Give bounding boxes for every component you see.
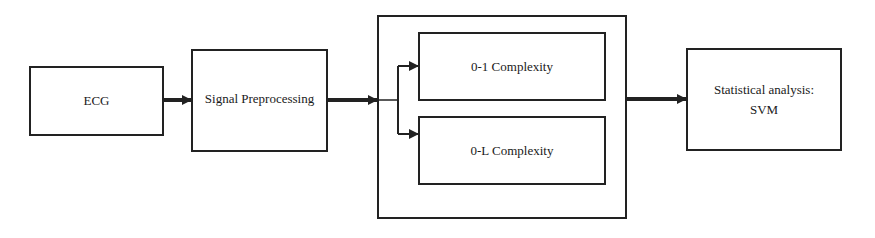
svm-box: Statistical analysis: SVM xyxy=(686,48,842,151)
0l-complexity-label: 0-L Complexity xyxy=(471,141,554,161)
signal-preprocessing-box: Signal Preprocessing xyxy=(191,49,328,152)
svm-label-line2: SVM xyxy=(750,100,778,120)
01-complexity-box: 0-1 Complexity xyxy=(418,32,606,101)
signal-preprocessing-label: Signal Preprocessing xyxy=(205,89,314,109)
svm-label-line1: Statistical analysis: xyxy=(714,80,814,100)
ecg-box: ECG xyxy=(29,66,164,136)
ecg-label: ECG xyxy=(84,91,110,111)
0l-complexity-box: 0-L Complexity xyxy=(418,116,606,185)
01-complexity-label: 0-1 Complexity xyxy=(471,57,553,77)
